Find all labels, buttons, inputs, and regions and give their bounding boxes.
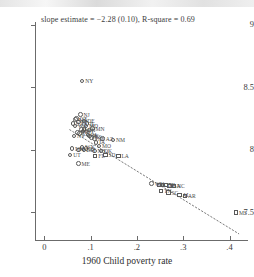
circle-marker [92,149,97,154]
circle-marker [149,181,154,186]
square-marker [159,189,164,194]
square-marker [166,190,171,195]
point-label: MN [95,126,104,132]
point-label: AR [188,193,196,199]
point-label: ME [82,161,90,167]
circle-marker [76,161,81,166]
point-label: VT [82,147,89,153]
slope-annotation: slope estimate = −2.28 (0.10), R-square … [41,15,195,24]
regression-line [0,0,254,277]
square-marker [183,194,188,199]
square-marker [234,210,239,215]
point-label: NY [85,78,93,84]
circle-marker [111,138,116,143]
scatter-plot: 7.588.59 0.1.2.3.4 NYNJCTMARIDEILCAWAMDM… [0,0,254,277]
point-label: FL [98,153,105,159]
square-marker [93,154,98,159]
circle-marker [70,146,75,151]
point-label: NM [116,137,125,143]
point-label: SD [108,152,115,158]
square-marker [177,193,182,198]
point-label: NV [77,133,85,139]
x-axis-label: 1960 Child poverty rate [0,256,254,266]
square-marker [116,154,121,159]
point-label: NC [177,183,185,189]
square-marker [172,184,177,189]
point-label: MS [239,210,247,216]
point-label: UT [73,152,80,158]
point-label: LA [121,153,128,159]
